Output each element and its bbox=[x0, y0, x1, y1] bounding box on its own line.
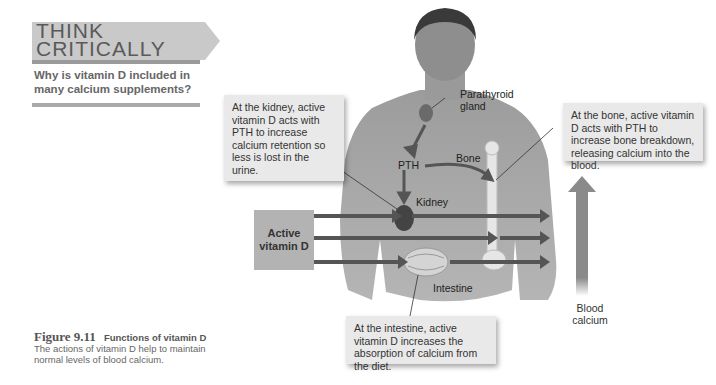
blood-calcium-label: Blood calcium bbox=[560, 302, 620, 326]
intestine-icon bbox=[404, 248, 448, 276]
intestine-callout: At the intestine, active vitamin D incre… bbox=[346, 316, 496, 364]
blood-calcium-arrow bbox=[568, 176, 596, 296]
parathyroid-label: Parathyroid gland bbox=[460, 88, 520, 112]
active-vitamin-d-line-1: Active bbox=[259, 227, 309, 240]
bone-label: Bone bbox=[456, 152, 481, 164]
active-vitamin-d-box: Active vitamin D bbox=[254, 210, 314, 270]
blood-calcium-line-2: calcium bbox=[560, 314, 620, 326]
intestine-label: Intestine bbox=[433, 282, 473, 294]
blood-calcium-line-1: Blood bbox=[560, 302, 620, 314]
kidney-callout: At the kidney, active vitamin D acts wit… bbox=[224, 95, 344, 181]
pth-label: PTH bbox=[398, 159, 419, 171]
kidney-label: Kidney bbox=[416, 196, 448, 208]
bone-callout: At the bone, active vitamin D acts with … bbox=[563, 103, 703, 161]
active-vitamin-d-line-2: vitamin D bbox=[259, 240, 309, 253]
